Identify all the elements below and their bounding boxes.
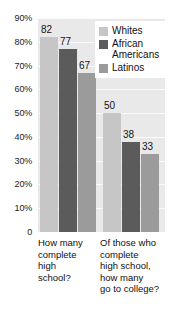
legend-swatch-whites xyxy=(99,27,108,36)
y-axis-tick-label: 10% xyxy=(15,204,32,213)
legend-swatch-latinos xyxy=(99,64,108,73)
legend-item-african-americans: African Americans xyxy=(99,38,170,61)
y-axis-tick-label: 20% xyxy=(15,180,32,189)
y-axis-tick-label: 70% xyxy=(15,61,32,70)
y-axis-tick-label: 50% xyxy=(15,109,32,118)
x-axis-label-1: Of those who complete high school, how m… xyxy=(100,237,174,295)
bar-value-label: 67 xyxy=(79,61,90,71)
bar-value-label: 33 xyxy=(142,142,153,152)
legend-label-african-americans: African Americans xyxy=(112,38,159,61)
y-axis-tick-label: 80% xyxy=(15,37,32,46)
legend-swatch-african-americans xyxy=(99,40,108,49)
legend-label-whites: Whites xyxy=(112,25,143,37)
legend-item-latinos: Latinos xyxy=(99,62,170,74)
legend-label-latinos: Latinos xyxy=(112,62,144,74)
bar-value-label: 38 xyxy=(123,130,134,140)
x-axis-category-labels: How many complete high school? Of those … xyxy=(38,237,175,312)
y-axis: 90%80%70%60%50%40%30%20%10%0 xyxy=(0,18,34,232)
y-axis-tick-label: 90% xyxy=(15,14,32,23)
x-axis-label-0: How many complete high school? xyxy=(38,237,98,283)
y-axis-tick-label: 40% xyxy=(15,132,32,141)
bar-value-label: 77 xyxy=(60,37,71,47)
y-axis-tick-label: 60% xyxy=(15,85,32,94)
legend-item-whites: Whites xyxy=(99,25,170,37)
y-axis-tick-label: 0 xyxy=(27,228,32,237)
y-axis-tick-label: 30% xyxy=(15,156,32,165)
legend: Whites African Americans Latinos xyxy=(95,21,173,78)
bar-value-label: 50 xyxy=(104,101,115,111)
bar-value-label: 82 xyxy=(41,25,52,35)
bar-chart-figure: 90%80%70%60%50%40%30%20%10%0 82776750383… xyxy=(0,0,175,312)
